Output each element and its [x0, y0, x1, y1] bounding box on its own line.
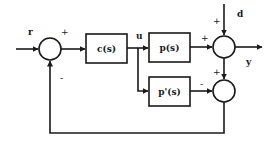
- output-sum-plant-plus-sign: +: [201, 33, 209, 43]
- error-sum-minus-sign: -: [200, 79, 203, 89]
- output-summing-junction: [213, 36, 235, 58]
- plant-label: p(s): [160, 43, 180, 53]
- signal-label-r: r: [28, 27, 33, 37]
- feedback-path-arrow: [50, 61, 224, 133]
- signal-label-d: d: [237, 9, 244, 19]
- signal-label-u: u: [136, 31, 143, 41]
- input-sum-minus-sign: -: [60, 73, 63, 83]
- signal-label-y: y: [245, 57, 252, 67]
- plant-model-label: p'(s): [158, 87, 181, 97]
- block-diagram: r + - c(s) u p(s) p'(s) + d + y + -: [0, 0, 270, 141]
- controller-label: c(s): [97, 44, 116, 54]
- control-to-model-arrow: [138, 48, 148, 91]
- output-sum-disturbance-plus-sign: +: [213, 16, 221, 26]
- model-error-summing-junction: [213, 80, 235, 102]
- error-sum-plus-sign: +: [213, 67, 221, 77]
- input-summing-junction: [39, 38, 61, 60]
- input-sum-plus-sign: +: [61, 27, 69, 37]
